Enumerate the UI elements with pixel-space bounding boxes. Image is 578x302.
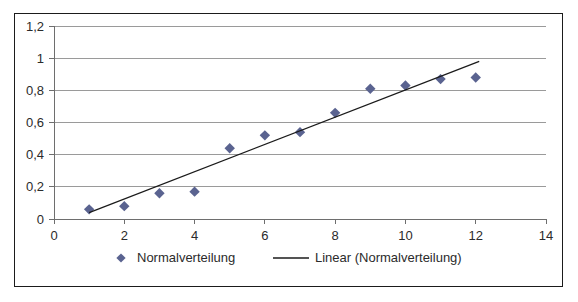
y-tick-label-0: 0 bbox=[37, 212, 44, 227]
data-point bbox=[119, 201, 129, 211]
x-tick-label-4: 8 bbox=[332, 228, 339, 243]
data-point bbox=[365, 84, 375, 94]
scatter-chart-svg: 00,20,40,60,811,202468101214Normalvertei… bbox=[15, 14, 561, 285]
x-tick-label-6: 12 bbox=[468, 228, 482, 243]
y-tick-label-6: 1,2 bbox=[26, 19, 44, 34]
x-tick-label-7: 14 bbox=[539, 228, 553, 243]
legend-label-0[interactable]: Normalverteilung bbox=[137, 250, 235, 265]
y-tick-label-4: 0,8 bbox=[26, 83, 44, 98]
x-tick-label-3: 6 bbox=[261, 228, 268, 243]
data-point bbox=[154, 188, 164, 198]
x-tick-label-2: 4 bbox=[191, 228, 198, 243]
data-point bbox=[84, 204, 94, 214]
legend-label-1[interactable]: Linear (Normalverteilung) bbox=[315, 250, 462, 265]
x-tick-label-1: 2 bbox=[121, 228, 128, 243]
data-point bbox=[471, 72, 481, 82]
data-point bbox=[260, 130, 270, 140]
y-tick-label-2: 0,4 bbox=[26, 147, 44, 162]
trendline-series-1 bbox=[89, 61, 479, 212]
legend-marker-diamond bbox=[116, 253, 125, 262]
y-tick-label-3: 0,6 bbox=[26, 115, 44, 130]
chart-frame: 00,20,40,60,811,202468101214Normalvertei… bbox=[14, 13, 563, 287]
x-tick-label-5: 10 bbox=[398, 228, 412, 243]
y-tick-label-5: 1 bbox=[37, 51, 44, 66]
data-point bbox=[189, 186, 199, 196]
scatter-series-0 bbox=[84, 72, 481, 214]
x-tick-label-0: 0 bbox=[50, 228, 57, 243]
plot-area: 00,20,40,60,811,202468101214Normalvertei… bbox=[15, 14, 562, 286]
data-point bbox=[225, 143, 235, 153]
y-tick-label-1: 0,2 bbox=[26, 179, 44, 194]
